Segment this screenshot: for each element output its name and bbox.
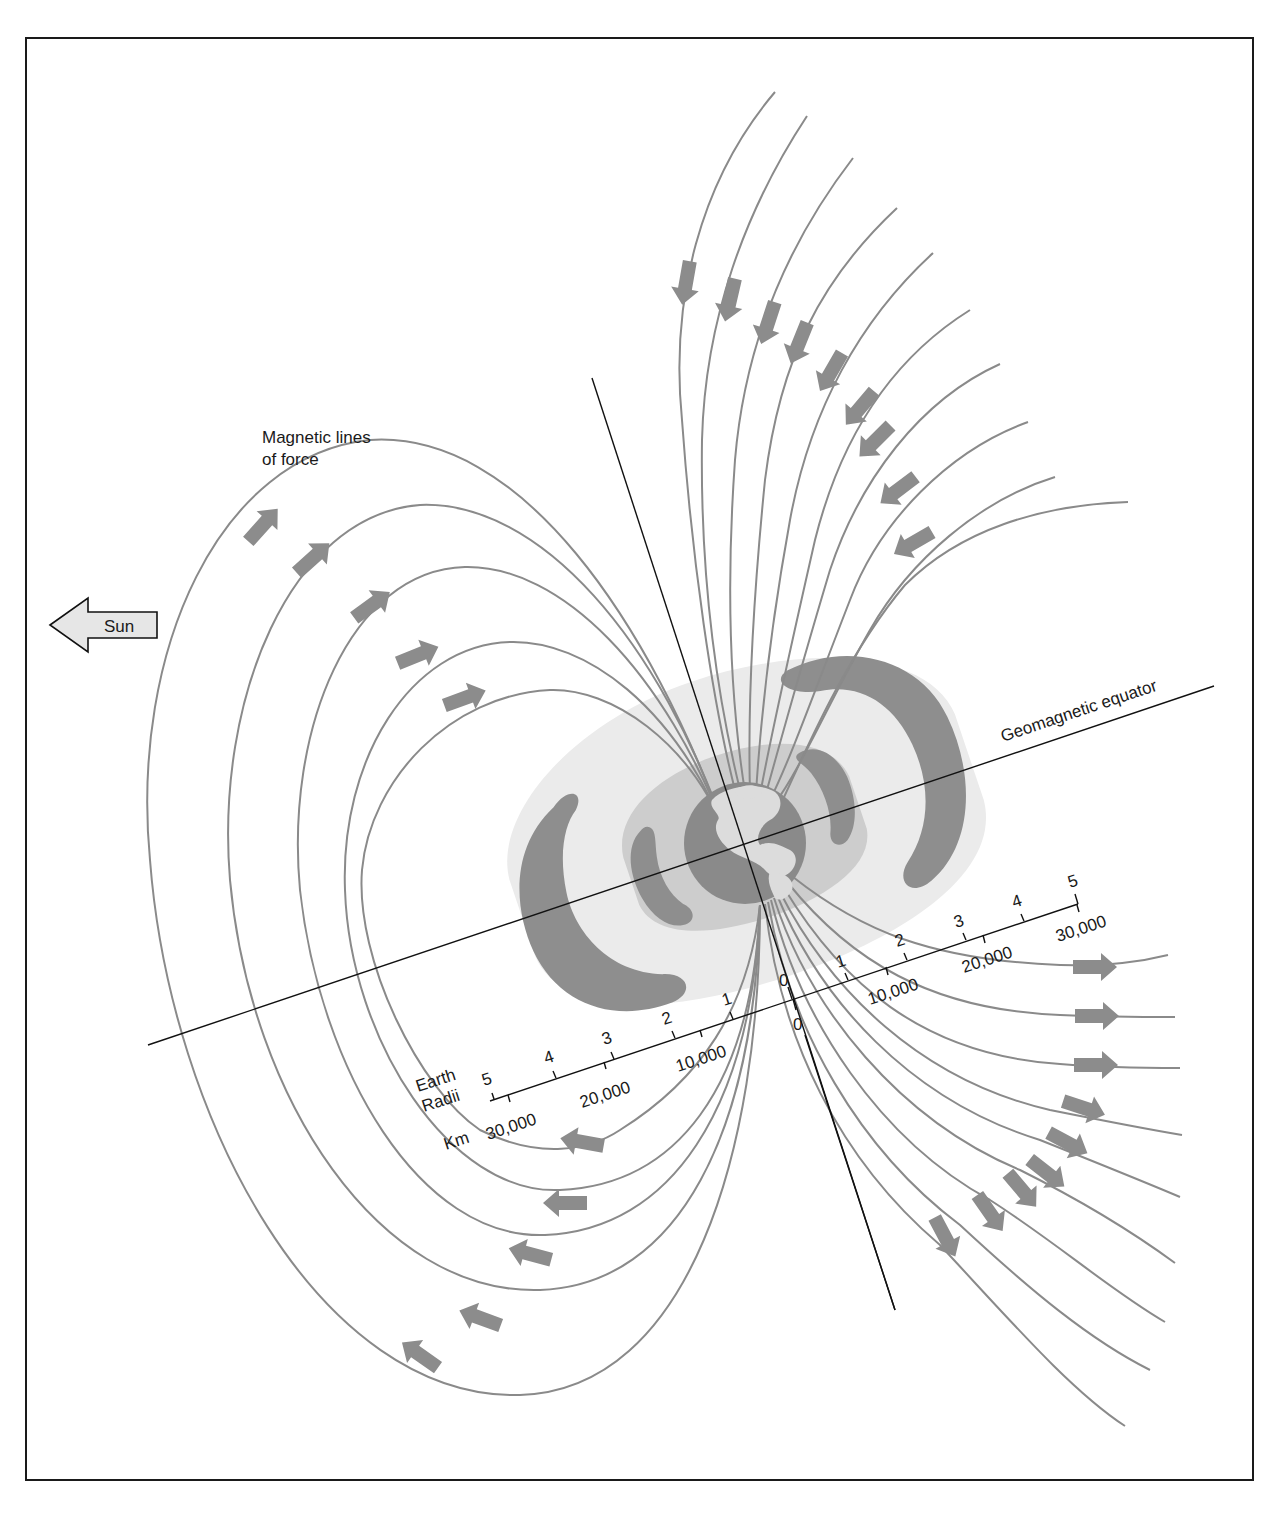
field-lines-label-line2: of force [262,450,319,469]
south-outgoing-arrows [922,953,1119,1263]
arrow-icon [1073,953,1117,981]
sun-direction-arrow: Sun [50,598,157,652]
arrow-icon [711,275,748,324]
radii-tick-label: 1 [833,951,848,972]
arrow-icon [850,416,901,467]
arrow-icon [346,581,398,630]
geomagnetic-equator-label: Geomagnetic equator [998,676,1159,746]
dayside-arrows-upper [238,499,491,718]
arrow-icon [922,1211,967,1263]
arrow-icon [1075,1002,1119,1030]
km-tick-label: 20,000 [577,1078,632,1112]
km-tick-label: 30,000 [1053,912,1108,946]
arrow-icon [543,1189,587,1217]
north-incoming-arrows [668,259,939,566]
arrow-icon [668,259,703,307]
radii-tick-label: 3 [599,1028,614,1049]
field-line [765,904,1125,1426]
km-tick-label: 10,000 [865,975,920,1009]
km-tick-label: 10,000 [673,1042,728,1076]
arrow-icon [440,677,491,718]
radii-tick-label: 2 [659,1008,674,1029]
field-lines-label-line1: Magnetic lines [262,428,371,447]
arrow-icon [966,1187,1014,1239]
radii-tick-label: 5 [1065,871,1080,892]
arrow-icon [394,1331,446,1379]
arrow-icon [1074,1051,1118,1079]
dayside-arrows-lower [394,1124,606,1379]
arrow-icon [748,298,788,348]
zero-km-label: 0 [793,1015,802,1034]
radii-tick-label: 3 [951,911,966,932]
magnetosphere-diagram: Earth Radii Km 5 4 3 2 1 30,000 20,000 1… [0,0,1280,1513]
earth-globe [684,782,806,904]
arrow-icon [872,466,924,515]
arrow-icon [287,533,338,583]
radii-tick-label: 5 [479,1069,494,1090]
magnetic-axis-lower-segment [805,1035,895,1310]
arrow-icon [887,520,939,566]
arrow-icon [558,1124,606,1159]
km-title: Km [441,1128,471,1154]
arrow-icon [392,634,443,676]
arrow-icon [238,499,288,550]
field-lines-label: Magnetic lines of force [262,428,371,469]
km-tick-label: 20,000 [959,943,1014,977]
arrow-icon [455,1297,506,1338]
radii-tick-label: 4 [541,1047,556,1068]
arrow-icon [505,1235,555,1273]
radii-tick-label: 4 [1009,891,1024,912]
arrow-icon [1059,1088,1109,1128]
zero-radii-label: 0 [779,971,788,990]
km-tick-label: 30,000 [483,1110,538,1144]
sun-label: Sun [104,617,134,636]
arrow-icon [778,317,820,368]
